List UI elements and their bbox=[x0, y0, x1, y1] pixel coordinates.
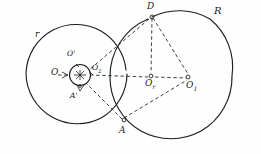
line-D-to-O1 bbox=[153, 18, 188, 74]
label-O-r-sub: r bbox=[152, 83, 155, 90]
label-A-prime: A' bbox=[70, 92, 77, 100]
line-D-to-Or bbox=[151, 18, 152, 73]
label-A: A bbox=[119, 126, 126, 135]
right-circle bbox=[110, 11, 233, 139]
label-O1: O1 bbox=[186, 81, 197, 92]
point-markers bbox=[122, 15, 190, 122]
label-O1-sub: 1 bbox=[193, 85, 197, 92]
figure-canvas bbox=[0, 0, 261, 154]
small-circle-center-marks bbox=[74, 70, 86, 80]
line-A-to-small-circle bbox=[86, 83, 122, 119]
geometry-figure: r R D A A' O O' O2 Or O1 bbox=[0, 0, 261, 154]
point-A bbox=[122, 118, 126, 122]
label-O2-sub: 2 bbox=[98, 68, 101, 74]
label-O-prime: O' bbox=[67, 50, 75, 58]
label-O2: O2 bbox=[92, 64, 101, 74]
label-O-r: Or bbox=[145, 79, 155, 90]
label-R: R bbox=[214, 6, 222, 16]
line-A-to-O1 bbox=[124, 80, 187, 118]
label-D: D bbox=[147, 2, 154, 11]
point-O1 bbox=[186, 75, 190, 79]
label-r: r bbox=[35, 30, 39, 39]
label-O: O bbox=[51, 68, 58, 77]
